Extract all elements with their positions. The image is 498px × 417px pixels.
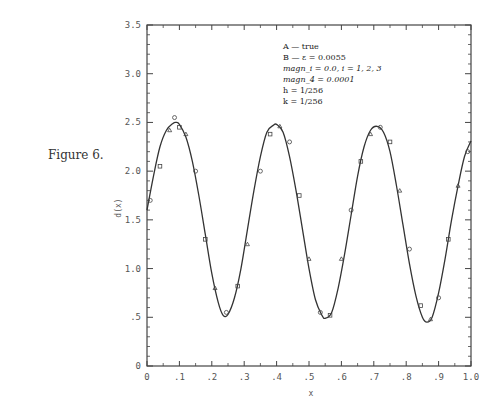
data-point-marker xyxy=(173,116,177,120)
y-tick-label: 1.0 xyxy=(125,264,141,274)
data-point-marker xyxy=(168,128,172,132)
data-point-marker xyxy=(297,194,301,198)
legend-annotation: A — true B — ε = 0.0055 magn_i = 0.0, i … xyxy=(282,42,382,106)
y-tick-label: 0 xyxy=(136,361,141,371)
x-tick-label: 0 xyxy=(144,372,149,382)
legend-magn-4: magn_4 = 0.0001 xyxy=(283,75,355,84)
y-tick-label: 1.5 xyxy=(125,215,141,225)
series-approx-markers xyxy=(148,116,470,321)
data-point-marker xyxy=(245,242,249,246)
x-tick-label: .7 xyxy=(368,372,379,382)
x-tick-label: .4 xyxy=(271,372,282,382)
data-point-marker xyxy=(158,164,162,168)
y-tick-label: 3.0 xyxy=(125,69,141,79)
legend-magn-i: magn_i = 0.0, i = 1, 2, 3 xyxy=(283,64,382,73)
data-point-marker xyxy=(339,257,343,261)
x-axis-label: x xyxy=(309,389,314,398)
legend-k: k = 1/256 xyxy=(283,97,323,106)
data-point-marker xyxy=(224,310,228,314)
data-point-marker xyxy=(407,247,411,251)
x-tick-label: .6 xyxy=(336,372,347,382)
y-tick-label: 2.5 xyxy=(125,117,141,127)
x-tick-label: .1 xyxy=(174,372,185,382)
x-tick-label: 1.0 xyxy=(463,372,479,382)
line-chart: 0.1.2.3.4.5.6.7.8.91.0 0.51.01.52.02.53.… xyxy=(0,0,498,417)
data-point-marker xyxy=(288,140,292,144)
x-tick-label: .2 xyxy=(206,372,217,382)
data-point-marker xyxy=(388,140,392,144)
data-point-marker xyxy=(419,304,423,308)
y-tick-label: 2.0 xyxy=(125,166,141,176)
x-tick-label: .5 xyxy=(304,372,315,382)
x-tick-label: .3 xyxy=(239,372,250,382)
x-tick-label: .9 xyxy=(433,372,444,382)
y-tick-label: .5 xyxy=(130,312,141,322)
legend-line-b: B — ε = 0.0055 xyxy=(283,53,346,62)
data-point-marker xyxy=(258,169,262,173)
legend-line-a: A — true xyxy=(282,42,319,51)
series-true-line xyxy=(147,122,471,322)
y-tick-label: 3.5 xyxy=(125,20,141,30)
y-axis-label: d(x) xyxy=(114,198,123,217)
data-point-marker xyxy=(398,189,402,193)
legend-h: h = 1/256 xyxy=(283,86,323,95)
data-point-marker xyxy=(268,132,272,136)
x-tick-label: .8 xyxy=(401,372,412,382)
